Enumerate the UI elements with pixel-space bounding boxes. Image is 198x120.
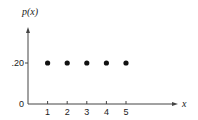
- x-tick-label: 1: [45, 107, 50, 117]
- data-point: [65, 60, 70, 65]
- data-point: [104, 60, 109, 65]
- x-axis-arrow-icon: [172, 102, 178, 106]
- y-tick-label: .20: [11, 58, 24, 68]
- x-tick-label: 5: [123, 107, 128, 117]
- y-tick-label: 0: [19, 99, 24, 109]
- y-ticks: 0.20: [11, 58, 28, 109]
- x-tick-label: 4: [104, 107, 109, 117]
- data-point: [45, 60, 50, 65]
- x-tick-label: 3: [84, 107, 89, 117]
- data-points: [45, 60, 129, 65]
- x-axis-label: x: [181, 98, 187, 109]
- y-axis-arrow-icon: [26, 27, 30, 33]
- data-point: [84, 60, 89, 65]
- x-tick-label: 2: [65, 107, 70, 117]
- data-point: [123, 60, 128, 65]
- axes: [26, 27, 178, 106]
- y-axis-label: p(x): [21, 6, 39, 18]
- x-ticks: 12345: [45, 101, 128, 117]
- probability-distribution-chart: p(x) x 12345 0.20: [0, 0, 198, 120]
